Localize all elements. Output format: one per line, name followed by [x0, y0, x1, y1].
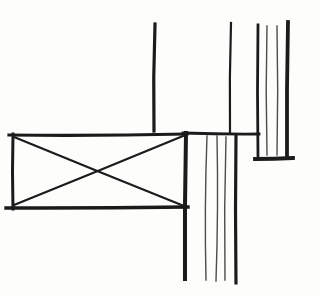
- ledge-line: [183, 133, 259, 134]
- lower-grain-band: [205, 135, 236, 283]
- crossed-blocking-box-stroke: [13, 134, 14, 209]
- blocking-cross-diagonals: [14, 136, 184, 206]
- upper-right-grain-panel-stroke: [258, 25, 259, 157]
- lower-grain-band-stroke: [225, 137, 226, 280]
- upper-middle-wall-line: [230, 23, 231, 132]
- lower-grain-band-stroke: [216, 136, 218, 281]
- upper-right-grain-panel-stroke: [277, 26, 278, 155]
- crossed-blocking-box-stroke: [6, 207, 188, 208]
- upper-right-grain-panel-stroke: [266, 26, 267, 155]
- upper-right-grain-panel: [255, 22, 293, 159]
- ledge-line-stroke: [183, 133, 259, 134]
- upper-right-grain-panel-stroke: [255, 158, 293, 159]
- upper-middle-wall-line-stroke: [230, 23, 231, 132]
- upper-left-wall-line: [154, 24, 155, 131]
- lower-grain-band-stroke: [205, 136, 207, 280]
- crossed-blocking-box-stroke: [9, 134, 187, 135]
- detail-drawing-canvas: [0, 0, 320, 296]
- upper-left-wall-line-stroke: [154, 24, 155, 131]
- lower-grain-band-stroke: [236, 135, 237, 283]
- upper-right-grain-panel-stroke: [287, 22, 288, 157]
- crossed-blocking-box: [6, 133, 188, 279]
- architectural-detail-drawing: [0, 0, 320, 296]
